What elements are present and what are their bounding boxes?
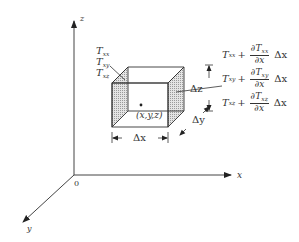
y-axis-label: y (27, 224, 32, 234)
z-axis-label: z (80, 14, 84, 24)
left-face (112, 67, 128, 127)
center-point-label: (x,y,z) (136, 110, 162, 120)
origin-label: 0 (74, 179, 79, 189)
diagram-graphics (0, 0, 299, 242)
dy-label: Δy (192, 115, 205, 125)
right-stress-xz-equation: Txz + ∂Txz∂x Δx (222, 92, 287, 113)
dx-label: Δx (133, 133, 146, 143)
y-axis (23, 175, 74, 222)
stress-element-diagram: z x y 0 Txx Txy Txz Txx + ∂Txx∂x Δx Txy … (0, 0, 299, 242)
x-axis-label: x (237, 170, 242, 180)
center-point (140, 104, 143, 107)
dz-label: Δz (190, 84, 203, 94)
right-face (168, 67, 184, 127)
right-stress-xx-equation: Txx + ∂Txx∂x Δx (222, 44, 287, 65)
right-stress-xy-equation: Txy + ∂Txy∂x Δx (222, 68, 287, 89)
left-stress-xz: Txz (96, 68, 109, 81)
